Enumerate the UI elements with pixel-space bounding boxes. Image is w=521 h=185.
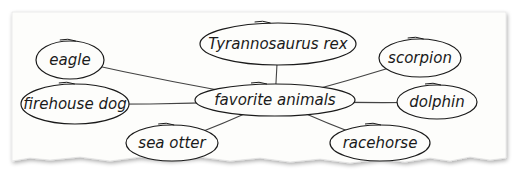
node-label: favorite animals [214,91,336,109]
node-label: firehouse dog [23,95,126,113]
node-label: sea otter [138,134,206,152]
node-label: dolphin [409,93,465,111]
concept-web-diagram: favorite animalsTyrannosaurus rexeaglesc… [0,0,521,185]
node-label: racehorse [343,134,418,152]
node-label: eagle [49,51,90,69]
node-label: scorpion [388,49,452,67]
node-label: Tyrannosaurus rex [208,35,347,53]
